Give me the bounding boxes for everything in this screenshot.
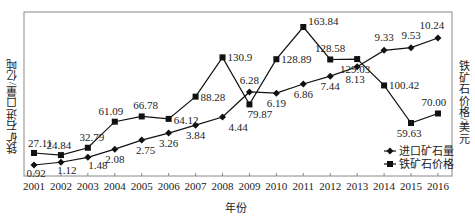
square-marker-icon xyxy=(58,152,64,158)
price-data-label: 64.12 xyxy=(174,114,199,126)
data-labels: 0.921.121.482.082.753.263.844.446.286.19… xyxy=(26,15,446,179)
x-axis-label: 年份 xyxy=(225,199,247,215)
price-data-label: 128.58 xyxy=(315,42,346,54)
legend-square-icon xyxy=(387,161,393,167)
x-tick-label: 2007 xyxy=(185,180,208,192)
square-marker-icon xyxy=(85,145,91,151)
diamond-marker-icon xyxy=(273,90,280,97)
square-marker-icon xyxy=(273,56,279,62)
price-data-label: 79.87 xyxy=(247,108,272,120)
x-tick-label: 2005 xyxy=(131,180,154,192)
square-marker-icon xyxy=(246,101,252,107)
x-tick-label: 2001 xyxy=(23,180,45,192)
square-marker-icon xyxy=(112,119,118,125)
diamond-marker-icon xyxy=(327,73,334,80)
price-data-label: 128.89 xyxy=(281,53,312,65)
x-tick-label: 2014 xyxy=(373,180,396,192)
quantity-data-label: 6.86 xyxy=(294,88,314,100)
square-marker-icon xyxy=(193,94,199,100)
x-tick-label: 2004 xyxy=(104,180,127,192)
price-data-label: 66.78 xyxy=(133,99,158,111)
square-marker-icon xyxy=(300,24,306,30)
square-marker-icon xyxy=(435,110,441,116)
series-markers xyxy=(31,24,442,168)
x-tick-label: 2009 xyxy=(238,180,261,192)
series-lines xyxy=(34,27,438,165)
x-tick-label: 2013 xyxy=(346,180,369,192)
x-tick-label: 2010 xyxy=(265,180,288,192)
quantity-data-label: 6.28 xyxy=(240,74,260,86)
price-data-label: 61.09 xyxy=(98,105,123,117)
x-axis-tick-labels: 2001200220032004200520062007200820092010… xyxy=(23,180,449,192)
price-data-label: 163.84 xyxy=(308,15,339,27)
legend-diamond-icon xyxy=(387,148,394,155)
quantity-data-label: 9.53 xyxy=(401,29,421,41)
legend-label-quantity: 进口矿石量 xyxy=(399,145,454,157)
price-data-label: 59.63 xyxy=(397,127,422,139)
diamond-marker-icon xyxy=(300,81,307,88)
diamond-marker-icon xyxy=(165,130,172,137)
square-marker-icon xyxy=(166,116,172,122)
price-data-label: 88.28 xyxy=(201,91,226,103)
square-marker-icon xyxy=(220,54,226,60)
x-tick-label: 2011 xyxy=(293,180,315,192)
quantity-data-label: 10.24 xyxy=(420,19,445,31)
price-data-label: 129.03 xyxy=(340,63,371,75)
x-tick-label: 2003 xyxy=(77,180,100,192)
square-marker-icon xyxy=(31,150,37,156)
x-tick-label: 2002 xyxy=(50,180,72,192)
square-marker-icon xyxy=(139,113,145,119)
price-data-label: 24.84 xyxy=(47,139,72,151)
quantity-data-label: 2.75 xyxy=(136,144,156,156)
diamond-marker-icon xyxy=(111,146,118,153)
x-tick-label: 2015 xyxy=(400,180,423,192)
x-tick-label: 2008 xyxy=(212,180,235,192)
quantity-data-label: 1.12 xyxy=(57,164,76,176)
line-chart: 2001200220032004200520062007200820092010… xyxy=(0,0,475,219)
price-data-label: 70.00 xyxy=(422,96,447,108)
y-axis-left-label: 铁矿石进口量/亿吨 xyxy=(4,44,20,154)
x-tick-label: 2012 xyxy=(319,180,341,192)
quantity-data-label: 3.26 xyxy=(159,137,179,149)
square-marker-icon xyxy=(327,56,333,62)
square-marker-icon xyxy=(381,82,387,88)
quantity-data-label: 9.33 xyxy=(374,31,394,43)
diamond-marker-icon xyxy=(138,137,145,144)
x-tick-label: 2016 xyxy=(427,180,450,192)
quantity-data-label: 3.84 xyxy=(186,129,206,141)
diamond-marker-icon xyxy=(434,34,441,41)
diamond-marker-icon xyxy=(381,47,388,54)
quantity-data-label: 7.44 xyxy=(321,80,341,92)
y-axis-right-label: 铁矿石价格/美元 xyxy=(456,60,472,160)
legend-label-price: 铁矿石价格 xyxy=(399,157,454,170)
quantity-data-label: 2.08 xyxy=(105,153,125,165)
diamond-marker-icon xyxy=(408,44,415,51)
x-tick-label: 2006 xyxy=(158,180,181,192)
square-marker-icon xyxy=(354,56,360,62)
price-data-label: 32.79 xyxy=(79,131,104,143)
chart-legend: 进口矿石量铁矿石价格 xyxy=(384,145,454,170)
quantity-data-label: 6.19 xyxy=(267,97,287,109)
quantity-data-label: 0.92 xyxy=(26,167,45,179)
price-data-label: 130.9 xyxy=(228,51,253,63)
quantity-data-label: 4.44 xyxy=(229,121,249,133)
price-data-label: 100.42 xyxy=(389,79,419,91)
square-marker-icon xyxy=(408,120,414,126)
